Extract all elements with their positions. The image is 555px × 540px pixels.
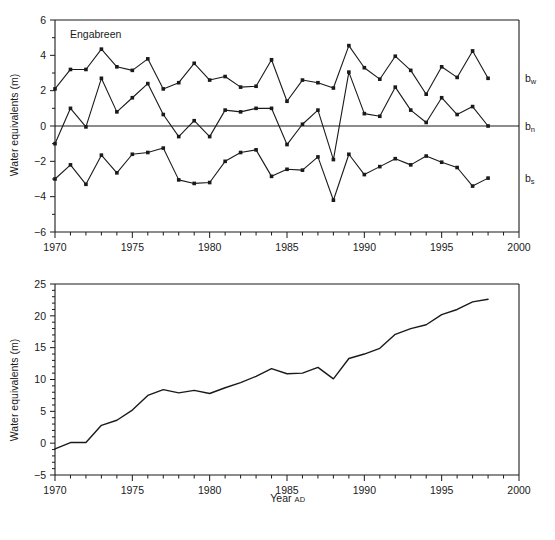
data-point-marker [332, 86, 336, 90]
data-point-marker [363, 66, 367, 70]
y-tick-label: −2 [34, 155, 46, 167]
data-point-marker [455, 166, 459, 170]
y-tick-label: 6 [40, 14, 46, 26]
data-point-marker [270, 107, 274, 111]
data-point-marker [270, 175, 274, 179]
y-tick-label: −4 [34, 190, 46, 202]
series-labels-top: bwbnbs [525, 72, 537, 186]
series-label-b_w: bw [525, 72, 537, 87]
data-point-marker [424, 121, 428, 125]
data-point-marker [378, 77, 382, 81]
y-axis-title-top: Water equivalents (m) [8, 74, 20, 176]
y-tick-label: 2 [40, 84, 46, 96]
data-point-marker [208, 181, 212, 185]
data-point-marker [239, 110, 243, 114]
x-tick-label: 2000 [507, 241, 531, 253]
data-point-marker [301, 168, 305, 172]
data-point-marker [378, 165, 382, 169]
y-tick-labels-top: −6−4−20246 [34, 14, 46, 238]
data-point-marker [424, 154, 428, 158]
y-tick-label: −5 [34, 469, 46, 481]
data-point-marker [254, 107, 258, 111]
data-point-marker [409, 108, 413, 112]
data-point-marker [53, 87, 57, 91]
series-label-b_s: bs [525, 172, 535, 187]
data-point-marker [177, 178, 181, 182]
data-point-marker [177, 81, 181, 85]
data-point-marker [254, 84, 258, 88]
data-point-marker [471, 49, 475, 53]
data-point-marker [69, 163, 73, 167]
data-point-marker [440, 96, 444, 100]
axes-bottom [50, 284, 519, 481]
data-point-marker [84, 183, 88, 187]
data-point-marker [486, 77, 490, 81]
data-point-marker [161, 146, 165, 150]
data-point-marker [332, 158, 336, 162]
data-point-marker [409, 69, 413, 73]
data-point-marker [192, 61, 196, 65]
data-point-marker [363, 112, 367, 116]
x-tick-label: 1995 [430, 241, 454, 253]
data-point-marker [285, 167, 289, 171]
data-point-marker [53, 177, 57, 181]
series-line-cumulative_net_balance [55, 299, 488, 449]
data-point-marker [393, 54, 397, 58]
x-axis-title: Year AD [270, 492, 306, 504]
data-point-marker [131, 96, 135, 100]
data-point-marker [100, 47, 104, 51]
data-point-marker [161, 113, 165, 117]
data-point-marker [316, 155, 320, 159]
y-tick-label: 0 [40, 120, 46, 132]
data-point-marker [440, 65, 444, 69]
data-point-marker [393, 85, 397, 89]
data-point-marker [239, 151, 243, 155]
data-point-marker [409, 163, 413, 167]
series-line-b_w [55, 46, 488, 102]
y-axis-title-bottom: Water equivalents (m) [8, 339, 20, 441]
series-line-b_n [55, 72, 488, 159]
series-label-b_n: bn [525, 120, 535, 135]
data-point-marker [347, 70, 351, 74]
data-point-marker [115, 171, 119, 175]
data-point-marker [471, 184, 475, 188]
data-point-marker [363, 173, 367, 177]
data-point-marker [161, 87, 165, 91]
x-tick-label: 1990 [353, 241, 377, 253]
chart-seasonal-balance: Water equivalents (m) Engabreen −6−4−202… [0, 0, 555, 270]
data-point-marker [208, 78, 212, 82]
data-point-marker [424, 92, 428, 96]
series-group-top [53, 44, 490, 202]
data-point-marker [285, 99, 289, 103]
y-tick-label: 25 [34, 278, 46, 290]
data-point-marker [393, 157, 397, 161]
y-tick-label: 0 [40, 437, 46, 449]
data-point-marker [223, 75, 227, 79]
x-tick-label: 1985 [275, 241, 299, 253]
x-tick-label: 1995 [430, 484, 454, 496]
figure-mass-balance-engabreen: Water equivalents (m) Engabreen −6−4−202… [0, 0, 555, 540]
y-tick-label: 20 [34, 310, 46, 322]
y-tick-label: 4 [40, 49, 46, 61]
x-tick-label: 1980 [198, 484, 222, 496]
data-point-marker [146, 57, 150, 61]
y-tick-label: 10 [34, 373, 46, 385]
data-point-marker [486, 176, 490, 180]
data-point-marker [471, 105, 475, 109]
data-point-marker [100, 153, 104, 157]
series-line-b_s [55, 148, 488, 200]
data-point-marker [440, 160, 444, 164]
data-point-marker [347, 44, 351, 48]
data-point-marker [223, 160, 227, 164]
x-tick-label: 1990 [353, 484, 377, 496]
x-tick-label: 2000 [507, 484, 531, 496]
data-point-marker [69, 107, 73, 111]
data-point-marker [115, 110, 119, 114]
data-point-marker [115, 65, 119, 69]
chart-annotation-engabreen: Engabreen [70, 28, 122, 40]
data-point-marker [378, 114, 382, 118]
data-point-marker [285, 143, 289, 147]
data-point-marker [347, 152, 351, 156]
x-tick-label: 1970 [43, 241, 67, 253]
data-point-marker [301, 78, 305, 82]
